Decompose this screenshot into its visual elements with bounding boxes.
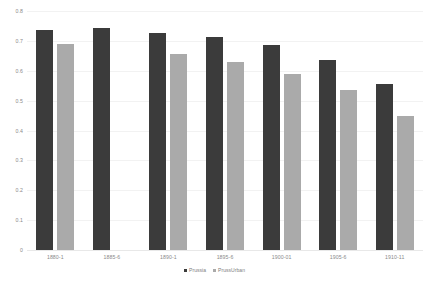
chart-legend: PrussiaPrussUrban [0,268,429,273]
x-axis-tick-label: 1900-01 [253,254,310,260]
bar-group [140,11,197,250]
bar[interactable] [227,62,244,250]
bar[interactable] [319,60,336,250]
y-axis-tick-label: 0.3 [15,157,23,163]
bar[interactable] [36,30,53,250]
x-axis-tick-label: 1890-1 [140,254,197,260]
bar-groups [27,11,423,250]
x-axis: 1880-11885-61890-11895-61900-011905-6191… [27,254,423,260]
bar-group [27,11,84,250]
bar[interactable] [376,84,393,250]
y-axis-tick-label: 0.8 [15,8,23,14]
bar[interactable] [397,116,414,250]
bar[interactable] [263,45,280,250]
legend-item[interactable]: PrussUrban [213,268,245,273]
x-axis-tick-label: 1910-11 [366,254,423,260]
y-axis: 0.80.70.60.50.40.30.20.10 [0,0,27,250]
bar[interactable] [340,90,357,250]
x-axis-tick-label: 1880-1 [27,254,84,260]
x-axis-tick-label: 1895-6 [197,254,254,260]
bar-group [253,11,310,250]
bar[interactable] [57,44,74,250]
legend-swatch-icon [184,269,187,272]
bar[interactable] [284,74,301,250]
bar[interactable] [93,28,110,250]
y-axis-tick-label: 0.7 [15,38,23,44]
y-axis-tick-label: 0.1 [15,217,23,223]
x-axis-tick-label: 1905-6 [310,254,367,260]
bar[interactable] [170,54,187,250]
x-axis-tick-label: 1885-6 [84,254,141,260]
bar[interactable] [206,37,223,250]
legend-item-label: PrussUrban [218,268,245,273]
bar-chart: 0.80.70.60.50.40.30.20.10 1880-11885-618… [0,0,429,291]
gridline [27,250,423,251]
legend-item[interactable]: Prussia [184,268,206,273]
legend-item-label: Prussia [189,268,206,273]
bar-group [366,11,423,250]
y-axis-tick-label: 0.4 [15,128,23,134]
bar-group [310,11,367,250]
y-axis-tick-label: 0 [20,247,23,253]
bar[interactable] [149,33,166,250]
legend-swatch-icon [213,269,216,272]
y-axis-tick-label: 0.2 [15,187,23,193]
y-axis-tick-label: 0.6 [15,68,23,74]
bar-group [197,11,254,250]
bar-group [84,11,141,250]
y-axis-tick-label: 0.5 [15,98,23,104]
